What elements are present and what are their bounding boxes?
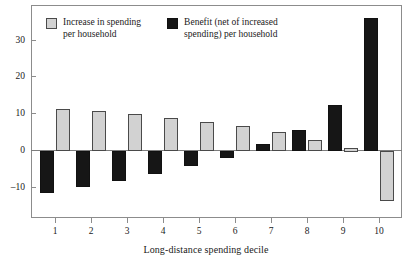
bar-spending-5 (200, 122, 214, 151)
y-tick-label-0: 0 (0, 145, 25, 155)
bar-spending-7 (272, 132, 286, 151)
y-tick-label-10: 10 (0, 108, 25, 118)
bar-benefit-7 (256, 144, 270, 151)
bar-spending-4 (164, 118, 178, 151)
legend-entry-increase-in-spending: Increase in spending per household (46, 17, 141, 40)
legend-swatch-light-icon (46, 18, 57, 29)
y-tick-neg10 (31, 187, 36, 188)
x-tick-7 (271, 218, 272, 223)
x-tick-label-7: 7 (259, 226, 283, 237)
bar-benefit-2 (76, 151, 90, 187)
bar-benefit-6 (220, 151, 234, 158)
x-tick-label-8: 8 (295, 226, 319, 237)
bar-spending-6 (236, 126, 250, 151)
x-tick-1 (55, 218, 56, 223)
x-tick-6 (235, 218, 236, 223)
x-tick-label-9: 9 (331, 226, 355, 237)
bar-benefit-3 (112, 151, 126, 181)
legend-label-benefit: Benefit (net of increased spending) per … (184, 17, 278, 40)
x-tick-5 (199, 218, 200, 223)
bar-benefit-4 (148, 151, 162, 174)
x-tick-label-10: 10 (367, 226, 391, 237)
x-tick-8 (307, 218, 308, 223)
bar-benefit-8 (292, 130, 306, 151)
y-tick-label-20: 20 (0, 71, 25, 81)
x-axis-title: Long-distance spending decile (0, 244, 412, 256)
x-tick-label-2: 2 (79, 226, 103, 237)
x-tick-label-4: 4 (151, 226, 175, 237)
x-tick-10 (379, 218, 380, 223)
x-tick-9 (343, 218, 344, 223)
bar-spending-8 (308, 140, 322, 151)
bar-benefit-5 (184, 151, 198, 166)
y-tick-30 (31, 40, 36, 41)
y-tick-label-30: 30 (0, 35, 25, 45)
legend-swatch-dark-icon (167, 18, 178, 29)
bar-benefit-9 (328, 105, 342, 151)
x-tick-2 (91, 218, 92, 223)
x-tick-label-6: 6 (223, 226, 247, 237)
chart-figure: 30 20 10 0 –10 1 2 3 4 5 6 (0, 0, 412, 265)
legend-label-increase-in-spending: Increase in spending per household (63, 17, 141, 40)
x-tick-label-5: 5 (187, 226, 211, 237)
x-tick-label-3: 3 (115, 226, 139, 237)
chart-legend: Increase in spending per household Benef… (46, 17, 278, 40)
x-tick-4 (163, 218, 164, 223)
x-tick-label-1: 1 (43, 226, 67, 237)
bar-spending-10 (380, 151, 394, 201)
y-tick-20 (31, 76, 36, 77)
bar-spending-1 (56, 109, 70, 151)
bar-spending-9 (344, 148, 358, 152)
bar-benefit-1 (40, 151, 54, 193)
bar-spending-3 (128, 114, 142, 151)
y-tick-10 (31, 113, 36, 114)
x-tick-3 (127, 218, 128, 223)
bar-spending-2 (92, 111, 106, 151)
legend-entry-benefit: Benefit (net of increased spending) per … (167, 17, 278, 40)
bar-benefit-10 (364, 18, 378, 151)
y-tick-label-neg10: –10 (0, 182, 25, 192)
